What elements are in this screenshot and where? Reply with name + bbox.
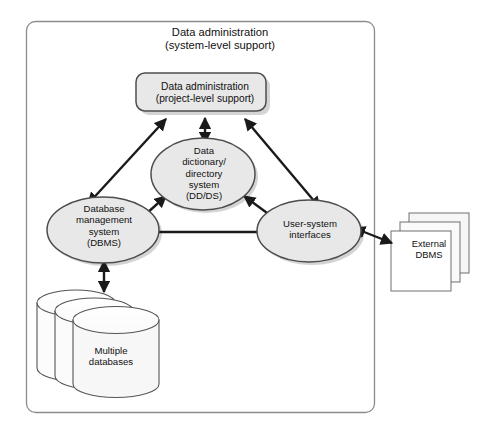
data-dictionary-node[interactable] [151, 138, 255, 210]
connector-usi-project-admin [245, 119, 320, 208]
project-admin-node[interactable] [136, 73, 266, 111]
diagram-canvas: Data administration (system-level suppor… [0, 0, 491, 437]
dbms-node[interactable] [47, 197, 159, 263]
multiple-databases-node[interactable] [37, 290, 159, 398]
diagram-graphics [0, 0, 491, 437]
external-dbms-node[interactable] [391, 213, 469, 291]
user-system-interfaces-node[interactable] [257, 200, 361, 262]
